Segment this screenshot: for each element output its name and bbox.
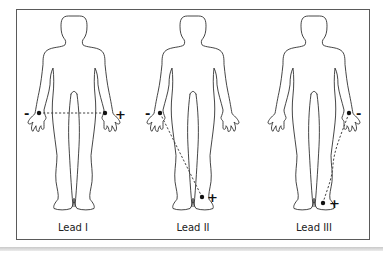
negative-sign: - [356, 106, 361, 121]
lead-ii-caption: Lead II [176, 222, 209, 233]
panel-lead-iii [268, 16, 360, 210]
positive-sign: + [329, 196, 340, 211]
electrode-right-arm [158, 111, 162, 115]
positive-sign: + [207, 190, 218, 205]
lead-diagram: - + Lead I - + Lead II - + Lead III [0, 0, 383, 256]
human-figure-outline [268, 16, 360, 210]
lead-iii-vector [323, 113, 349, 203]
electrode-left-leg [321, 201, 325, 205]
electrode-right-arm [37, 111, 41, 115]
leg-divider [309, 91, 320, 206]
leg-divider [188, 91, 199, 206]
electrode-left-leg [200, 195, 204, 199]
positive-sign: + [115, 107, 126, 122]
lead-i-caption: Lead I [58, 222, 88, 233]
negative-sign: - [145, 106, 150, 121]
leg-divider [69, 91, 80, 206]
electrode-left-arm [103, 111, 107, 115]
electrode-left-arm [347, 111, 351, 115]
negative-sign: - [24, 106, 29, 121]
lead-iii-caption: Lead III [296, 222, 332, 233]
